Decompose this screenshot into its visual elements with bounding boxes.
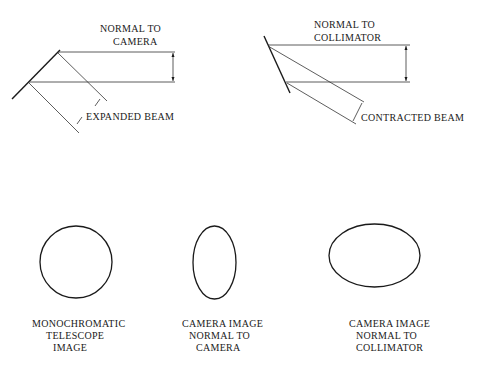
tall-ellipse-image — [193, 226, 236, 299]
monochromatic-image-figure: MONOCHROMATIC TELESCOPE IMAGE — [32, 226, 125, 353]
expanded-beam-label: EXPANDED BEAM — [86, 111, 174, 122]
dimension-arrow-up-icon — [405, 46, 408, 50]
beam-edge-lower — [287, 83, 356, 124]
dimension-arrow-up-icon — [172, 53, 175, 57]
contracted-beam-label: CONTRACTED BEAM — [361, 112, 464, 123]
grating-surface — [12, 50, 60, 99]
beam-dimension-tick-upper — [95, 99, 100, 106]
image-label-line1: CAMERA IMAGE — [182, 318, 263, 329]
wide-ellipse-image — [329, 224, 420, 287]
normal-to-collimator-label-line1: NORMAL TO — [314, 19, 375, 30]
image-label-line3: CAMERA — [196, 342, 241, 353]
normal-to-collimator-label-line2: COLLIMATOR — [314, 32, 381, 43]
beam-edge-lower — [29, 83, 79, 133]
collimator-normal-image-figure: CAMERA IMAGE NORMAL TO COLLIMATOR — [329, 224, 430, 353]
beam-geometry-diagram: NORMAL TO CAMERA EXPANDED BEAM NORMAL TO… — [0, 0, 481, 369]
image-label-line2: NORMAL TO — [189, 330, 250, 341]
image-label-line2: TELESCOPE — [46, 330, 104, 341]
image-label-line1: MONOCHROMATIC — [32, 318, 125, 329]
diagram-canvas: NORMAL TO CAMERA EXPANDED BEAM NORMAL TO… — [0, 0, 481, 369]
camera-normal-image-figure: CAMERA IMAGE NORMAL TO CAMERA — [182, 226, 263, 353]
beam-edge-upper — [268, 46, 364, 102]
dimension-arrow-down-icon — [405, 77, 408, 81]
image-label-line1: CAMERA IMAGE — [349, 318, 430, 329]
image-label-line2: NORMAL TO — [356, 330, 417, 341]
image-label-line3: IMAGE — [53, 342, 87, 353]
normal-to-camera-label-line2: CAMERA — [113, 36, 158, 47]
circle-image — [40, 226, 112, 298]
beam-dimension-tick-lower — [77, 117, 82, 124]
normal-to-camera-label-line1: NORMAL TO — [100, 23, 161, 34]
contracted-beam-figure: NORMAL TO COLLIMATOR CONTRACTED BEAM — [264, 19, 464, 124]
beam-edge-upper — [58, 53, 107, 101]
grating-surface — [264, 36, 290, 93]
expanded-beam-figure: NORMAL TO CAMERA EXPANDED BEAM — [12, 23, 175, 133]
dimension-arrow-down-icon — [172, 77, 175, 81]
image-label-line3: COLLIMATOR — [356, 342, 423, 353]
